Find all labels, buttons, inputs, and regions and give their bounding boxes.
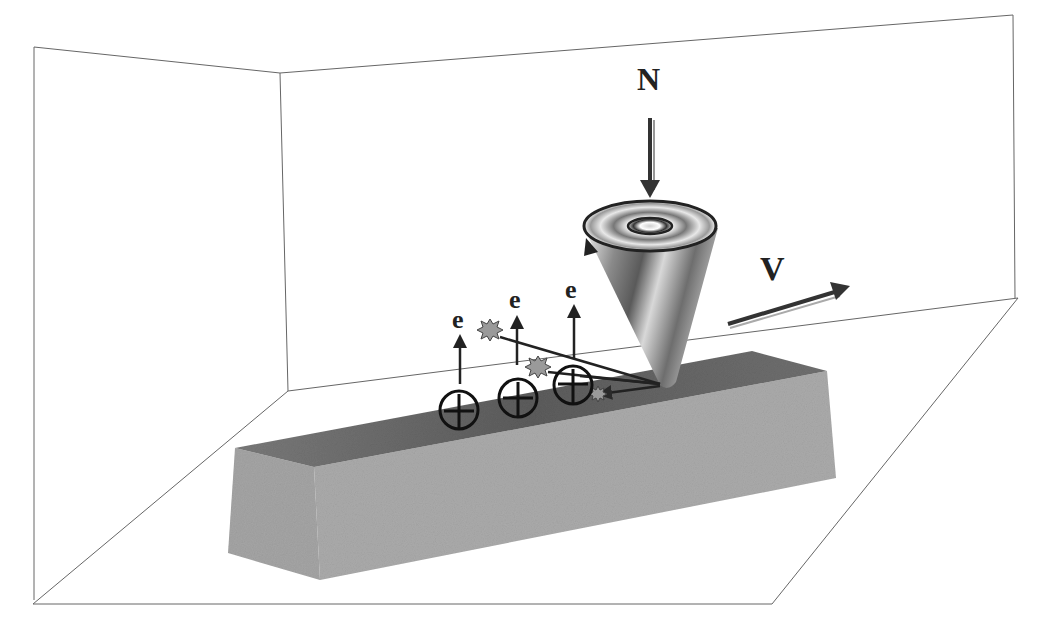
label-electron-3: e	[565, 275, 577, 304]
normal-force-arrow	[640, 118, 660, 198]
label-electron-1: e	[452, 305, 464, 334]
particle-1	[477, 319, 503, 341]
tribo-emission-diagram: N V	[0, 0, 1050, 638]
charge-3	[554, 366, 592, 404]
charge-1	[440, 391, 478, 429]
cone-top	[584, 201, 716, 251]
particle-2	[525, 356, 551, 378]
cone-indenter	[584, 201, 718, 388]
label-velocity: V	[760, 250, 785, 287]
charge-2	[499, 379, 537, 417]
bar-end-face	[228, 448, 320, 580]
velocity-arrow	[728, 282, 850, 328]
label-electron-2: e	[509, 285, 521, 314]
label-normal-force: N	[637, 61, 660, 97]
